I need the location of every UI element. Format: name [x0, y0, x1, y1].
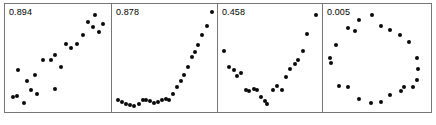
correlation-label-2: 0.878: [116, 7, 139, 17]
data-point: [235, 74, 239, 78]
data-point: [415, 56, 419, 60]
data-point: [370, 13, 374, 17]
data-point: [239, 71, 243, 75]
plot-area-3: [218, 4, 322, 112]
data-point: [33, 73, 37, 77]
data-point: [284, 75, 288, 79]
data-point: [210, 10, 214, 14]
plot-area-4: [323, 4, 431, 112]
data-point: [205, 24, 209, 28]
data-point: [415, 78, 419, 82]
data-point: [353, 29, 357, 33]
data-point: [271, 88, 275, 92]
scatterplot-figure: 0.8940.8780.4580.005: [0, 0, 436, 125]
data-point: [357, 97, 361, 101]
plot-area-2: [112, 4, 217, 112]
data-point: [200, 33, 204, 37]
data-point: [411, 85, 415, 89]
data-point: [182, 73, 186, 77]
data-point: [49, 58, 53, 62]
data-point: [59, 65, 63, 69]
data-point: [53, 53, 57, 57]
data-point: [190, 55, 194, 59]
data-point: [296, 58, 300, 62]
data-point: [232, 68, 236, 72]
data-point: [193, 50, 197, 54]
panel-2: 0.878: [111, 3, 218, 113]
data-point: [186, 65, 190, 69]
data-point: [64, 42, 68, 46]
data-point: [328, 56, 332, 60]
data-point: [16, 68, 20, 72]
data-point: [101, 22, 105, 26]
data-point: [329, 61, 333, 65]
data-point: [357, 18, 361, 22]
data-point: [398, 33, 402, 37]
panel-row: 0.8940.8780.4580.005: [4, 3, 432, 113]
data-point: [379, 100, 383, 104]
data-point: [305, 32, 309, 36]
data-point: [416, 67, 420, 71]
data-point: [29, 88, 33, 92]
data-point: [334, 43, 338, 47]
data-point: [301, 49, 305, 53]
data-point: [137, 102, 141, 106]
data-point: [288, 67, 292, 71]
data-point: [97, 30, 101, 34]
data-point: [75, 42, 79, 46]
data-point: [293, 62, 297, 66]
data-point: [86, 20, 90, 24]
data-point: [25, 79, 29, 83]
data-point: [337, 84, 341, 88]
data-point: [81, 33, 85, 37]
data-point: [346, 26, 350, 30]
data-point: [379, 24, 383, 28]
data-point: [388, 28, 392, 32]
data-point: [132, 104, 136, 108]
data-point: [179, 79, 183, 83]
data-point: [171, 92, 175, 96]
panel-3: 0.458: [217, 3, 323, 113]
panel-1: 0.894: [4, 3, 112, 113]
data-point: [265, 102, 269, 106]
plot-area-1: [5, 4, 111, 112]
data-point: [22, 101, 26, 105]
data-point: [167, 98, 171, 102]
correlation-label-4: 0.005: [327, 7, 350, 17]
data-point: [53, 87, 57, 91]
data-point: [41, 58, 45, 62]
data-point: [388, 93, 392, 97]
data-point: [247, 89, 251, 93]
data-point: [399, 89, 403, 93]
data-point: [69, 46, 73, 50]
data-point: [15, 94, 19, 98]
data-point: [93, 13, 97, 17]
data-point: [259, 95, 263, 99]
data-point: [275, 84, 279, 88]
correlation-label-3: 0.458: [222, 7, 245, 17]
data-point: [369, 101, 373, 105]
data-point: [402, 85, 406, 89]
data-point: [280, 88, 284, 92]
data-point: [35, 92, 39, 96]
data-point: [314, 13, 318, 17]
data-point: [407, 40, 411, 44]
data-point: [346, 85, 350, 89]
correlation-label-1: 0.894: [9, 7, 32, 17]
panel-4: 0.005: [322, 3, 432, 113]
data-point: [255, 88, 259, 92]
data-point: [11, 95, 15, 99]
data-point: [222, 49, 226, 53]
data-point: [175, 85, 179, 89]
data-point: [227, 65, 231, 69]
data-point: [91, 25, 95, 29]
data-point: [196, 43, 200, 47]
